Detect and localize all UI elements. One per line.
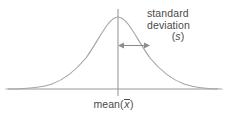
stddev-arrow-head-right <box>144 43 150 49</box>
mean-label-prefix: mean( <box>93 98 123 110</box>
mean-label-suffix: ) <box>130 98 134 110</box>
stddev-symbol-line: (s) <box>147 31 209 43</box>
stddev-symbol-close-paren: ) <box>181 30 185 42</box>
stddev-arrow-head-left <box>118 43 124 49</box>
mean-symbol-x-bar: x <box>124 99 130 111</box>
mean-label-inner: mean(x) <box>93 99 133 111</box>
stddev-label-line-1: standard <box>147 8 209 20</box>
normal-distribution-figure: standard deviation (s) mean(x) <box>0 0 227 120</box>
standard-deviation-label: standard deviation (s) <box>147 8 209 43</box>
standard-deviation-arrow <box>118 43 150 49</box>
mean-label: mean(x) <box>0 99 227 111</box>
